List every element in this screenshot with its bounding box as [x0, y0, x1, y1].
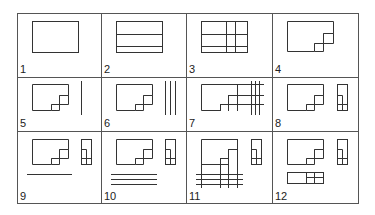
cell-label: 8	[275, 117, 281, 129]
grid-frame	[17, 13, 359, 204]
cell-10: 10	[104, 140, 176, 203]
cell-2: 2	[104, 22, 163, 76]
cell-4: 4	[275, 22, 334, 76]
cell-6: 6	[104, 81, 176, 129]
cell-8: 8	[275, 85, 348, 130]
cell-9: 9	[20, 140, 92, 203]
cell-label: 2	[104, 63, 110, 75]
cell-label: 11	[189, 190, 200, 202]
orthographic-steps-diagram: 1 2 3 4 5 6	[0, 0, 375, 215]
cell-label: 12	[275, 190, 287, 202]
cell-label: 10	[104, 190, 116, 202]
cell-12: 12	[275, 140, 348, 203]
cell-label: 9	[20, 190, 26, 202]
cell-label: 1	[20, 63, 26, 75]
cell-label: 6	[104, 117, 110, 129]
cell-7: 7	[189, 81, 264, 129]
cell-5: 5	[20, 81, 82, 129]
cell-label: 4	[275, 63, 281, 75]
cell-1: 1	[20, 22, 79, 76]
cell-label: 5	[20, 117, 26, 129]
cell-label: 7	[189, 117, 195, 129]
cell-11: 11	[189, 139, 262, 202]
cell-3: 3	[189, 21, 248, 75]
cell-label: 3	[189, 63, 195, 75]
